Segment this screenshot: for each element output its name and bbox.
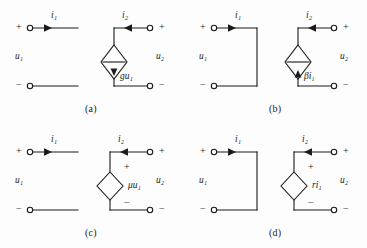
arrowhead-i2-d [304, 148, 312, 155]
diamond-source-c [97, 172, 123, 200]
terminal-left-top [211, 149, 216, 154]
polarity-left-plus: + [200, 146, 206, 156]
polarity-left-minus: − [16, 80, 22, 90]
circuit-d: + − + − i₁ i₂ u₁ u₂ + ri₁ − (d) [184, 124, 367, 248]
source-label-d: ri₁ [312, 181, 322, 191]
arrowhead-i1-d [228, 148, 236, 155]
voltage-label-u2: u₂ [156, 176, 164, 186]
polarity-right-plus: + [343, 22, 349, 32]
current-label-i1: i₁ [235, 135, 241, 145]
source-label-b: βi₁ [304, 72, 315, 82]
circuit-a: + − + − i₁ i₂ u₁ u₂ gu₁ (a) [0, 0, 183, 124]
current-label-i1: i₁ [51, 11, 57, 21]
polarity-right-plus: + [343, 146, 349, 156]
polarity-left-plus: + [16, 22, 22, 32]
terminal-left-bottom [211, 207, 216, 212]
current-label-i1: i₁ [51, 135, 57, 145]
current-label-i1: i₁ [235, 11, 241, 21]
diamond-source-d [281, 172, 307, 200]
voltage-label-u2: u₂ [156, 52, 164, 62]
terminal-left-bottom [211, 83, 216, 88]
source-label-c: μu₁ [128, 181, 141, 191]
terminal-right-top [331, 25, 336, 30]
terminal-left-bottom [27, 83, 32, 88]
terminal-left-bottom [27, 207, 32, 212]
terminal-left-top [27, 149, 32, 154]
current-label-i2: i₂ [302, 135, 308, 145]
source-polarity-minus-c: − [124, 198, 130, 208]
polarity-right-minus: − [159, 80, 165, 90]
caption-a: (a) [85, 104, 97, 114]
voltage-label-u1: u₁ [199, 52, 207, 62]
voltage-label-u1: u₁ [199, 176, 207, 186]
voltage-label-u2: u₂ [340, 52, 348, 62]
polarity-right-plus: + [159, 146, 165, 156]
terminal-right-bottom [331, 83, 336, 88]
polarity-right-minus: − [343, 80, 349, 90]
polarity-right-plus: + [159, 22, 165, 32]
terminal-right-top [147, 25, 152, 30]
caption-d: (d) [269, 228, 281, 238]
arrowhead-i2-c [120, 148, 128, 155]
polarity-right-minus: − [159, 204, 165, 214]
arrowhead-i1-a [44, 24, 52, 31]
polarity-left-minus: − [200, 80, 206, 90]
polarity-right-minus: − [343, 204, 349, 214]
current-label-i2: i₂ [118, 135, 124, 145]
source-polarity-plus-d: + [308, 162, 314, 172]
source-label-a: gu₁ [120, 72, 133, 82]
voltage-label-u1: u₁ [15, 52, 23, 62]
arrowhead-i1-b [228, 24, 236, 31]
terminal-right-top [147, 149, 152, 154]
controlled-sources-figure: + − + − i₁ i₂ u₁ u₂ gu₁ (a) [0, 0, 367, 248]
arrowhead-i1-c [44, 148, 52, 155]
polarity-left-plus: + [200, 22, 206, 32]
terminal-left-top [27, 25, 32, 30]
source-polarity-minus-d: − [308, 198, 314, 208]
caption-b: (b) [269, 104, 281, 114]
voltage-label-u1: u₁ [15, 176, 23, 186]
terminal-right-bottom [331, 207, 336, 212]
terminal-left-top [211, 25, 216, 30]
terminal-right-bottom [147, 207, 152, 212]
arrowhead-i2-a [124, 24, 132, 31]
caption-c: (c) [85, 228, 97, 238]
terminal-right-top [331, 149, 336, 154]
arrowhead-i2-b [308, 24, 316, 31]
polarity-left-minus: − [200, 204, 206, 214]
circuit-c: + − + − i₁ i₂ u₁ u₂ + μu₁ − (c) [0, 124, 183, 248]
voltage-label-u2: u₂ [340, 176, 348, 186]
circuit-b: + − + − i₁ i₂ u₁ u₂ βi₁ (b) [184, 0, 367, 124]
polarity-left-plus: + [16, 146, 22, 156]
current-label-i2: i₂ [122, 11, 128, 21]
polarity-left-minus: − [16, 204, 22, 214]
source-polarity-plus-c: + [124, 162, 130, 172]
terminal-right-bottom [147, 83, 152, 88]
current-label-i2: i₂ [306, 11, 312, 21]
